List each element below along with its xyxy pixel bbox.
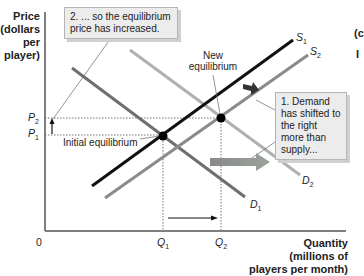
demand-shift-callout: 1. Demand has shifted to the right more … bbox=[275, 92, 347, 160]
initial-equilibrium-label: Initial equilibrium bbox=[63, 137, 137, 148]
q2-letter: Q bbox=[215, 236, 223, 248]
d2-label: D2 bbox=[302, 174, 314, 188]
new-eq-line: New bbox=[185, 50, 241, 61]
s1-label: S1 bbox=[296, 31, 307, 45]
price-callout-leader bbox=[53, 38, 111, 119]
p2-letter: P bbox=[28, 111, 35, 123]
origin-label: 0 bbox=[36, 236, 42, 248]
d2-letter: D bbox=[302, 174, 310, 186]
demand-callout-leader bbox=[256, 100, 275, 110]
y-title-line: player) bbox=[0, 49, 40, 62]
x-title-line: (millions of bbox=[240, 250, 348, 263]
q2-sub: 2 bbox=[223, 243, 227, 250]
q1-letter: Q bbox=[157, 236, 165, 248]
x-title-line: players per month) bbox=[240, 263, 348, 276]
y-axis-title: Price (dollars per player) bbox=[0, 10, 40, 62]
s2-sub: 2 bbox=[317, 52, 321, 59]
initial-equilibrium-point bbox=[159, 132, 168, 141]
s2-letter: S bbox=[310, 45, 317, 57]
p1-tick-label: P1 bbox=[28, 127, 39, 141]
d1-curve bbox=[72, 68, 245, 197]
side-fragment-a: (c bbox=[354, 27, 364, 39]
p2-tick-label: P2 bbox=[28, 111, 39, 125]
y-title-line: (dollars bbox=[0, 23, 40, 36]
y-title-line: per bbox=[0, 36, 40, 49]
d1-letter: D bbox=[250, 198, 258, 210]
q2-tick-label: Q2 bbox=[215, 236, 227, 250]
d1-label: D1 bbox=[250, 198, 262, 212]
quantity-right-arrowhead bbox=[211, 216, 218, 221]
s1-sub: 1 bbox=[303, 38, 307, 45]
p2-sub: 2 bbox=[35, 118, 39, 125]
x-title-line: Quantity bbox=[240, 237, 348, 250]
d1-sub: 1 bbox=[258, 205, 262, 212]
new-eq-line: equilibrium bbox=[185, 61, 241, 72]
new-equilibrium-label: New equilibrium bbox=[185, 50, 241, 72]
supply-shift-arrow-icon bbox=[243, 82, 259, 95]
new-equilibrium-point bbox=[217, 114, 226, 123]
demand-shift-arrow-icon bbox=[210, 153, 270, 171]
s1-letter: S bbox=[296, 31, 303, 43]
s2-label: S2 bbox=[310, 45, 321, 59]
side-fragment-b: I bbox=[356, 48, 359, 60]
x-axis-title: Quantity (millions of players per month) bbox=[240, 237, 348, 276]
price-increase-callout: 2. ... so the equilibrium price has incr… bbox=[64, 7, 178, 39]
q1-sub: 1 bbox=[165, 243, 169, 250]
q1-tick-label: Q1 bbox=[157, 236, 169, 250]
d2-sub: 2 bbox=[310, 181, 314, 188]
p1-letter: P bbox=[28, 127, 35, 139]
p1-sub: 1 bbox=[35, 134, 39, 141]
y-title-line: Price bbox=[0, 10, 40, 23]
price-up-arrowhead bbox=[50, 118, 55, 124]
